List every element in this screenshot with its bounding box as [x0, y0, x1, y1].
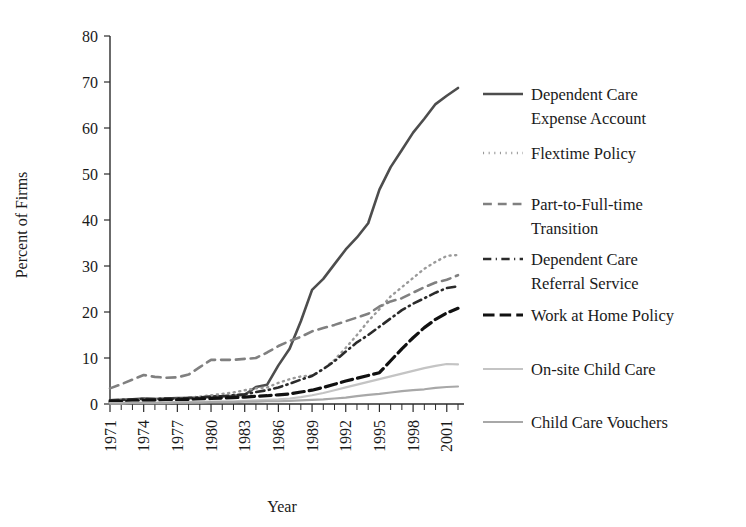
x-axis-title: Year [267, 498, 297, 515]
x-axis-tick-label: 1986 [270, 420, 287, 452]
x-axis-tick-label: 1980 [203, 420, 220, 452]
legend-label2-part-to-full-time-transition: Transition [531, 219, 598, 238]
y-axis-tick-label: 70 [82, 74, 98, 91]
legend-label-dependent-care-expense-account: Dependent Care [531, 85, 638, 104]
y-axis-tick-label: 20 [82, 304, 98, 321]
x-axis-tick-label: 1989 [304, 420, 321, 452]
x-axis-tick-label: 1971 [102, 420, 119, 452]
legend-label-part-to-full-time-transition: Part-to-Full-time [531, 195, 643, 214]
y-axis-tick-label: 50 [82, 166, 98, 183]
legend-label-dependent-care-referral-service: Dependent Care [531, 250, 638, 269]
x-axis-tick-label: 1998 [405, 420, 422, 452]
y-axis-title: Percent of Firms [13, 172, 30, 279]
x-axis-tick-label: 2001 [438, 420, 455, 452]
legend-label2-dependent-care-expense-account: Expense Account [531, 109, 646, 128]
y-axis-tick-label: 10 [82, 350, 98, 367]
legend-label-flextime-policy: Flextime Policy [531, 144, 637, 163]
chart-figure: 01020304050607080 1971197419771980198319… [0, 0, 746, 527]
y-axis-tick-label: 60 [82, 120, 98, 137]
legend-label2-dependent-care-referral-service: Referral Service [531, 274, 639, 293]
line-chart: 01020304050607080 1971197419771980198319… [0, 0, 746, 527]
y-axis-tick-label: 30 [82, 258, 98, 275]
legend-label-child-care-vouchers: Child Care Vouchers [531, 413, 668, 432]
y-axis-tick-label: 80 [82, 28, 98, 45]
y-axis-tick-label: 0 [90, 396, 98, 413]
x-axis-tick-label: 1974 [135, 420, 152, 452]
x-axis-tick-label: 1977 [169, 420, 186, 452]
y-axis-tick-label: 40 [82, 212, 98, 229]
legend-label-work-at-home-policy: Work at Home Policy [531, 306, 675, 325]
legend-label-on-site-child-care: On-site Child Care [531, 360, 656, 379]
x-axis-tick-label: 1995 [371, 420, 388, 452]
x-axis-tick-label: 1992 [337, 420, 354, 452]
x-axis-tick-label: 1983 [236, 420, 253, 452]
